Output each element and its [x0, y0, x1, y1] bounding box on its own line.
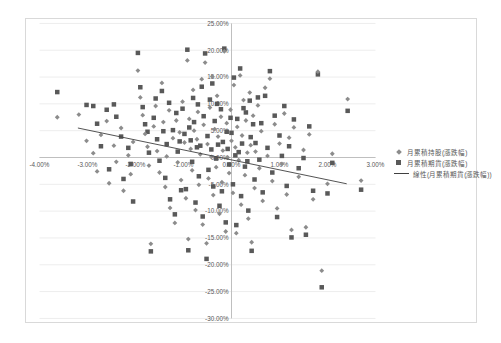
- scatter-point-square[interactable]: [143, 122, 148, 127]
- scatter-point-diamond[interactable]: [204, 241, 209, 246]
- scatter-point-square[interactable]: [221, 140, 226, 145]
- scatter-point-square[interactable]: [345, 109, 350, 114]
- scatter-point-square[interactable]: [140, 105, 145, 110]
- scatter-point-square[interactable]: [215, 102, 220, 107]
- scatter-point-square[interactable]: [211, 184, 216, 189]
- scatter-point-diamond[interactable]: [216, 134, 221, 139]
- scatter-point-diamond[interactable]: [234, 231, 239, 236]
- scatter-point-square[interactable]: [252, 177, 256, 182]
- scatter-point-diamond[interactable]: [200, 222, 205, 227]
- scatter-point-square[interactable]: [163, 176, 168, 181]
- scatter-point-diamond[interactable]: [171, 136, 176, 141]
- scatter-point-diamond[interactable]: [196, 182, 201, 187]
- scatter-point-square[interactable]: [235, 117, 240, 122]
- scatter-point-square[interactable]: [198, 143, 203, 148]
- scatter-point-diamond[interactable]: [140, 113, 145, 118]
- scatter-point-diamond[interactable]: [249, 240, 254, 245]
- scatter-point-square[interactable]: [282, 104, 287, 109]
- scatter-point-diamond[interactable]: [201, 122, 206, 127]
- scatter-point-square[interactable]: [239, 194, 244, 199]
- scatter-point-diamond[interactable]: [205, 142, 210, 147]
- scatter-point-diamond[interactable]: [193, 208, 198, 213]
- scatter-point-diamond[interactable]: [148, 241, 153, 246]
- scatter-point-diamond[interactable]: [235, 125, 240, 130]
- scatter-point-diamond[interactable]: [145, 144, 150, 149]
- scatter-point-diamond[interactable]: [239, 202, 244, 207]
- scatter-point-diamond[interactable]: [84, 138, 89, 143]
- scatter-point-square[interactable]: [227, 162, 232, 167]
- scatter-point-diamond[interactable]: [95, 169, 100, 174]
- scatter-point-diamond[interactable]: [228, 107, 233, 112]
- scatter-point-square[interactable]: [246, 208, 251, 213]
- scatter-point-square[interactable]: [304, 232, 309, 237]
- scatter-point-diamond[interactable]: [270, 179, 275, 184]
- scatter-point-diamond[interactable]: [284, 192, 289, 197]
- scatter-point-square[interactable]: [260, 190, 265, 195]
- scatter-point-diamond[interactable]: [155, 149, 160, 154]
- scatter-point-diamond[interactable]: [114, 159, 119, 164]
- scatter-point-square[interactable]: [121, 177, 126, 182]
- scatter-point-square[interactable]: [228, 116, 233, 121]
- scatter-point-diamond[interactable]: [301, 148, 306, 153]
- scatter-point-square[interactable]: [277, 133, 282, 138]
- scatter-point-square[interactable]: [256, 95, 261, 100]
- scatter-point-diamond[interactable]: [220, 148, 225, 153]
- scatter-point-square[interactable]: [223, 220, 228, 225]
- scatter-point-diamond[interactable]: [260, 199, 265, 204]
- scatter-point-diamond[interactable]: [247, 90, 252, 95]
- scatter-point-square[interactable]: [126, 146, 131, 151]
- scatter-point-square[interactable]: [160, 89, 165, 94]
- scatter-point-diamond[interactable]: [282, 111, 287, 116]
- scatter-point-square[interactable]: [301, 156, 306, 161]
- scatter-point-square[interactable]: [187, 125, 192, 130]
- scatter-point-diamond[interactable]: [345, 97, 350, 102]
- legend-item-series2[interactable]: 月累積期貨(漲跌幅): [394, 159, 492, 166]
- scatter-point-diamond[interactable]: [253, 149, 258, 154]
- scatter-point-diamond[interactable]: [187, 116, 192, 121]
- scatter-point-diamond[interactable]: [229, 138, 234, 143]
- scatter-point-square[interactable]: [173, 212, 178, 217]
- scatter-point-diamond[interactable]: [76, 112, 81, 117]
- scatter-point-square[interactable]: [180, 106, 185, 111]
- scatter-point-square[interactable]: [84, 103, 89, 108]
- scatter-point-square[interactable]: [292, 117, 297, 122]
- scatter-point-diamond[interactable]: [289, 228, 294, 233]
- scatter-point-square[interactable]: [197, 174, 202, 179]
- scatter-point-square[interactable]: [296, 166, 301, 171]
- scatter-point-diamond[interactable]: [263, 85, 268, 90]
- scatter-point-diamond[interactable]: [203, 60, 208, 65]
- scatter-point-diamond[interactable]: [272, 122, 277, 127]
- scatter-point-square[interactable]: [95, 121, 100, 126]
- scatter-point-square[interactable]: [231, 182, 236, 187]
- scatter-point-square[interactable]: [232, 75, 237, 80]
- scatter-point-square[interactable]: [240, 141, 245, 146]
- scatter-point-diamond[interactable]: [185, 58, 190, 63]
- scatter-point-square[interactable]: [284, 184, 289, 189]
- scatter-point-diamond[interactable]: [196, 110, 201, 115]
- scatter-point-diamond[interactable]: [192, 128, 197, 133]
- scatter-point-diamond[interactable]: [161, 120, 166, 125]
- scatter-point-square[interactable]: [157, 158, 162, 163]
- scatter-point-square[interactable]: [325, 191, 330, 196]
- scatter-point-square[interactable]: [55, 90, 60, 95]
- scatter-point-diamond[interactable]: [251, 113, 256, 118]
- scatter-point-square[interactable]: [193, 200, 198, 205]
- scatter-point-diamond[interactable]: [55, 115, 60, 120]
- scatter-point-square[interactable]: [179, 188, 184, 193]
- scatter-point-square[interactable]: [128, 162, 133, 167]
- scatter-point-diamond[interactable]: [215, 93, 220, 98]
- scatter-point-square[interactable]: [99, 144, 104, 149]
- scatter-point-square[interactable]: [311, 189, 316, 194]
- scatter-point-square[interactable]: [168, 197, 173, 202]
- scatter-point-square[interactable]: [280, 154, 285, 159]
- scatter-point-square[interactable]: [107, 167, 112, 172]
- scatter-point-square[interactable]: [186, 248, 191, 253]
- scatter-point-square[interactable]: [208, 97, 213, 102]
- scatter-point-square[interactable]: [210, 81, 215, 86]
- scatter-point-square[interactable]: [236, 150, 241, 155]
- scatter-point-diamond[interactable]: [188, 147, 193, 152]
- scatter-point-diamond[interactable]: [244, 118, 249, 123]
- scatter-point-diamond[interactable]: [224, 121, 229, 126]
- scatter-point-diamond[interactable]: [182, 140, 187, 145]
- scatter-point-square[interactable]: [287, 144, 292, 149]
